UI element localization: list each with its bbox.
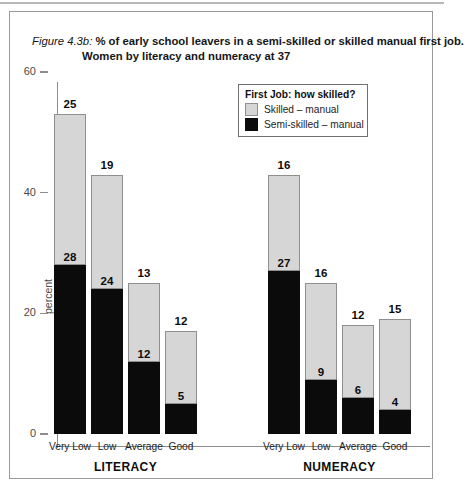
bar-label-skilled: 12 bbox=[165, 315, 197, 327]
stacked-bar bbox=[54, 114, 86, 434]
page-top-rule bbox=[0, 2, 444, 4]
legend-title: First Job: how skilled? bbox=[245, 89, 361, 100]
figure-title-line-2: Women by literacy and numeracy at 37 bbox=[32, 49, 436, 64]
figure-title-line-1: Figure 4.3b: % of early school leavers i… bbox=[32, 34, 436, 49]
y-axis-tick-label: 60 bbox=[6, 65, 36, 77]
bar-label-skilled: 16 bbox=[268, 159, 300, 171]
legend-item-semi-skilled: Semi-skilled – manual bbox=[245, 118, 361, 131]
legend-label-skilled: Skilled – manual bbox=[264, 104, 339, 115]
bar-segment-semi-skilled bbox=[379, 410, 411, 434]
figure-number: Figure 4.3b: bbox=[32, 35, 92, 47]
figure-title-text: % of early school leavers in a semi-skil… bbox=[95, 35, 464, 47]
stacked-bar bbox=[268, 175, 300, 434]
bar-label-semi-skilled: 28 bbox=[54, 251, 86, 263]
bar-label-skilled: 25 bbox=[54, 98, 86, 110]
stacked-bar bbox=[342, 325, 374, 434]
bar-segment-skilled bbox=[91, 175, 123, 290]
legend-label-semi-skilled: Semi-skilled – manual bbox=[264, 119, 364, 130]
stacked-bar bbox=[165, 331, 197, 434]
x-axis-category-label: Good bbox=[369, 441, 421, 452]
stacked-bar bbox=[91, 175, 123, 434]
y-axis-tick-label: 20 bbox=[6, 306, 36, 318]
y-axis-tick bbox=[40, 192, 48, 193]
legend-swatch-skilled-icon bbox=[245, 103, 258, 116]
stacked-bar bbox=[379, 319, 411, 434]
legend-swatch-semi-skilled-icon bbox=[245, 118, 258, 131]
bar-label-semi-skilled: 5 bbox=[165, 390, 197, 402]
bar-label-semi-skilled: 9 bbox=[305, 366, 337, 378]
bar-label-skilled: 15 bbox=[379, 303, 411, 315]
bar-label-semi-skilled: 6 bbox=[342, 384, 374, 396]
y-axis-tick bbox=[40, 433, 48, 434]
stacked-bar bbox=[305, 283, 337, 434]
chart-legend: First Job: how skilled? Skilled – manual… bbox=[238, 84, 368, 137]
bar-segment-semi-skilled bbox=[165, 404, 197, 434]
bar-segment-skilled bbox=[54, 114, 86, 265]
bar-label-semi-skilled: 12 bbox=[128, 348, 160, 360]
bar-segment-semi-skilled bbox=[54, 265, 86, 434]
bar-label-semi-skilled: 4 bbox=[379, 396, 411, 408]
bar-label-skilled: 13 bbox=[128, 267, 160, 279]
bar-label-skilled: 19 bbox=[91, 159, 123, 171]
bar-label-semi-skilled: 24 bbox=[91, 275, 123, 287]
bar-segment-semi-skilled bbox=[268, 271, 300, 434]
x-axis-category-label: Good bbox=[155, 441, 207, 452]
bar-segment-semi-skilled bbox=[91, 289, 123, 434]
bar-label-semi-skilled: 27 bbox=[268, 257, 300, 269]
y-axis-tick bbox=[40, 313, 48, 314]
y-axis-title: percent bbox=[42, 279, 54, 314]
x-axis-group-label: LITERACY bbox=[54, 460, 197, 474]
bar-label-skilled: 16 bbox=[305, 267, 337, 279]
bar-segment-semi-skilled bbox=[342, 398, 374, 434]
y-axis-tick bbox=[40, 71, 48, 72]
figure-title: Figure 4.3b: % of early school leavers i… bbox=[32, 34, 436, 64]
legend-item-skilled: Skilled – manual bbox=[245, 103, 361, 116]
bar-segment-semi-skilled bbox=[305, 380, 337, 434]
y-axis-tick-label: 0 bbox=[6, 427, 36, 439]
x-axis-group-label: NUMERACY bbox=[268, 460, 411, 474]
y-axis-tick-label: 40 bbox=[6, 186, 36, 198]
bar-label-skilled: 12 bbox=[342, 309, 374, 321]
bar-segment-semi-skilled bbox=[128, 362, 160, 434]
